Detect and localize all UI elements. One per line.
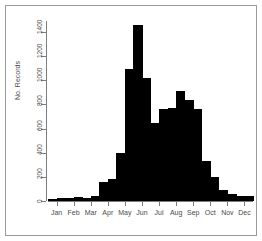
x-axis-tick xyxy=(125,202,126,206)
x-axis-tick-label: Dec xyxy=(232,208,256,217)
x-axis-tick xyxy=(244,202,245,206)
y-axis-tick-label: 1200 xyxy=(0,56,40,64)
x-axis-tick xyxy=(210,202,211,206)
x-axis-tick xyxy=(108,202,109,206)
plot-area xyxy=(48,20,253,201)
y-axis-tick-label-text: 1400 xyxy=(36,32,44,34)
bars-layer xyxy=(48,20,253,201)
y-axis-tick-label-text: 600 xyxy=(36,129,44,131)
y-axis-tick-label: 800 xyxy=(0,104,40,112)
y-axis-tick-label: 200 xyxy=(0,177,40,185)
y-axis-tick-label: 1000 xyxy=(0,80,40,88)
y-axis-tick-label-text: 400 xyxy=(36,153,44,155)
x-axis-tick xyxy=(193,202,194,206)
y-axis-tick-label-text: 1200 xyxy=(36,56,44,58)
y-axis-tick-label: 1400 xyxy=(0,32,40,40)
x-axis-tick xyxy=(57,202,58,206)
bar xyxy=(244,196,253,201)
y-axis-line xyxy=(46,21,47,201)
x-axis-tick xyxy=(91,202,92,206)
x-axis-tick xyxy=(227,202,228,206)
x-axis-tick xyxy=(176,202,177,206)
y-axis-tick-label: 0 xyxy=(0,201,40,209)
y-axis-tick-label-text: 200 xyxy=(36,177,44,179)
x-axis-tick xyxy=(74,202,75,206)
x-axis-tick xyxy=(159,202,160,206)
chart-figure: No. Records 0200400600800100012001400 Ja… xyxy=(0,0,262,241)
y-axis-tick-label: 400 xyxy=(0,153,40,161)
x-axis-line xyxy=(48,201,253,202)
x-axis-tick xyxy=(142,202,143,206)
y-axis-tick-label: 600 xyxy=(0,129,40,137)
y-axis-tick-label-text: 0 xyxy=(36,201,44,203)
